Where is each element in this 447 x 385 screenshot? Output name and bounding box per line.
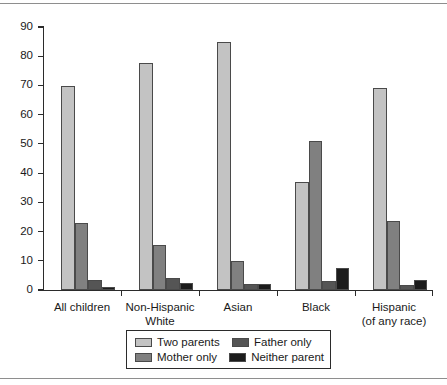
bottom-divider-rule	[0, 378, 447, 379]
y-axis-tick	[38, 114, 43, 115]
bar	[295, 182, 309, 290]
bar-group	[61, 26, 115, 290]
x-axis-tick	[199, 291, 200, 296]
legend-swatch-mother-only	[135, 353, 152, 362]
legend-row: Two parents Father only	[135, 335, 324, 350]
chart-legend: Two parents Father only Mother only Neit…	[126, 330, 331, 369]
legend-swatch-father-only	[232, 338, 249, 347]
bar	[309, 141, 323, 290]
legend-item-father-only: Father only	[232, 337, 312, 349]
x-axis-tick	[277, 291, 278, 296]
y-axis-tick	[38, 143, 43, 144]
y-axis-tick	[38, 26, 43, 27]
bar	[166, 278, 180, 290]
y-axis-tick-label: 0	[27, 284, 33, 296]
x-axis-category-label: Asian	[199, 301, 277, 315]
legend-swatch-two-parents	[135, 338, 152, 347]
bar	[387, 221, 401, 290]
bar	[139, 63, 153, 290]
legend-item-two-parents: Two parents	[135, 337, 232, 349]
bar	[400, 285, 414, 290]
y-axis-tick	[38, 289, 43, 290]
bar-chart-figure: 0102030405060708090 All childrenNon-Hisp…	[0, 4, 447, 378]
legend-label-two-parents: Two parents	[157, 337, 220, 349]
y-axis-line	[43, 26, 44, 291]
y-axis-tick-label: 40	[20, 167, 33, 179]
y-axis-tick	[38, 260, 43, 261]
y-axis-tick	[38, 231, 43, 232]
bar	[75, 223, 89, 290]
bar	[322, 281, 336, 290]
x-axis-tick	[121, 291, 122, 296]
bar	[373, 88, 387, 290]
x-axis-tick	[355, 291, 356, 296]
legend-label-mother-only: Mother only	[157, 352, 217, 364]
plot-area: 0102030405060708090 All childrenNon-Hisp…	[43, 26, 433, 291]
y-axis-tick-label: 20	[20, 226, 33, 238]
x-axis-tick	[432, 291, 433, 296]
y-axis-tick	[38, 173, 43, 174]
legend-swatch-neither-parent	[229, 353, 246, 362]
bar	[153, 245, 167, 290]
x-axis-line	[43, 290, 433, 291]
bar-group	[295, 26, 349, 290]
legend-label-neither-parent: Neither parent	[251, 352, 324, 364]
legend-row: Mother only Neither parent	[135, 350, 324, 365]
bar	[414, 280, 428, 290]
bar-group	[139, 26, 193, 290]
bar	[102, 287, 116, 290]
y-axis-tick	[38, 202, 43, 203]
bar	[244, 284, 258, 290]
y-axis-tick-label: 70	[20, 80, 33, 92]
bar	[217, 42, 231, 290]
x-axis-category-label: Black	[277, 301, 355, 315]
bar	[231, 261, 245, 291]
y-axis-tick-label: 80	[20, 50, 33, 62]
bar	[88, 280, 102, 290]
x-axis-category-label: Hispanic (of any race)	[355, 301, 433, 328]
y-axis-tick	[38, 56, 43, 57]
bar-group	[217, 26, 271, 290]
legend-label-father-only: Father only	[254, 337, 312, 349]
y-axis-tick-label: 50	[20, 138, 33, 150]
y-axis-tick-label: 60	[20, 109, 33, 121]
legend-item-mother-only: Mother only	[135, 352, 229, 364]
y-axis-tick-label: 30	[20, 197, 33, 209]
bar	[180, 283, 194, 290]
x-axis-category-label: All children	[43, 301, 121, 315]
bar	[61, 86, 75, 290]
legend-item-neither-parent: Neither parent	[229, 352, 324, 364]
y-axis-tick	[38, 85, 43, 86]
bar	[336, 268, 350, 290]
y-axis-tick-label: 90	[20, 21, 33, 33]
x-axis-category-label: Non-Hispanic White	[121, 301, 199, 328]
bar	[258, 284, 272, 290]
y-axis-tick-label: 10	[20, 255, 33, 267]
bar-group	[373, 26, 427, 290]
